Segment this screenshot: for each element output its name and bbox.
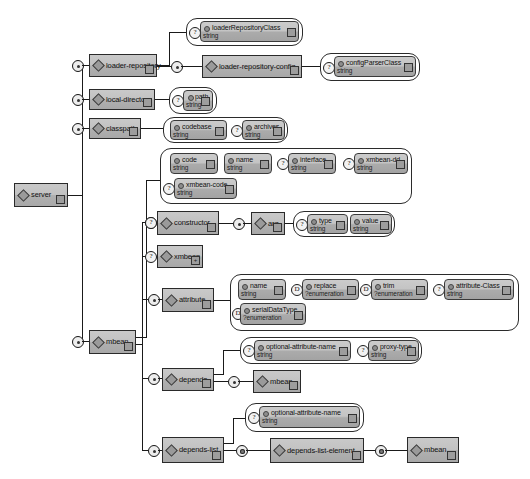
expand-collapse-icon[interactable] [289, 381, 298, 390]
attribute-value[interactable]: value string [350, 214, 392, 234]
expand-collapse-icon[interactable] [206, 160, 215, 169]
expand-collapse-icon[interactable] [145, 65, 154, 74]
attribute-type: string [257, 351, 272, 359]
element-local-directory[interactable]: local-directory [89, 89, 155, 110]
attribute-dep-optional-attribute-name[interactable]: optional-attribute-name string [254, 340, 351, 361]
attribute-type[interactable]: type string [307, 214, 348, 234]
attribute-list-optional-attribute-name[interactable]: optional-attribute-name string [259, 406, 360, 428]
attribute-type: string [177, 189, 192, 197]
element-loader-repository[interactable]: loader-repository [89, 54, 157, 77]
expand-collapse-icon[interactable] [416, 286, 425, 295]
attribute-attr-name[interactable]: name string [238, 279, 286, 300]
expand-collapse-icon[interactable] [336, 221, 345, 230]
element-constructor[interactable]: constructor [157, 211, 219, 235]
attribute-archives[interactable]: archives string [242, 120, 285, 140]
expand-collapse-icon[interactable] [201, 97, 210, 106]
element-depends-mbean[interactable]: mbean [253, 370, 301, 393]
element-depends-list[interactable]: depends-list [162, 437, 224, 463]
element-depends[interactable]: depends [162, 368, 214, 391]
connector-line [155, 99, 169, 100]
expand-icon[interactable]: + [191, 256, 200, 265]
connector-line [364, 450, 375, 451]
attribute-trim[interactable]: trim ?enumeration [371, 279, 428, 300]
attribute-label: loaderRepositoryClass [212, 23, 280, 32]
attribute-xmbean-code[interactable]: xmbean-code string [174, 178, 237, 199]
attribute-replace[interactable]: replace ?enumeration [302, 279, 359, 300]
attribute-serialDataType[interactable]: serialDataType ?enumeration [240, 303, 306, 325]
element-icon [165, 373, 178, 386]
sequence-connector[interactable] [171, 61, 183, 73]
attribute-name[interactable]: name string [224, 153, 272, 174]
attribute-type: string [357, 164, 372, 172]
element-label: constructor [174, 219, 210, 227]
element-loader-repository-config[interactable]: loader-repository-config [202, 55, 302, 78]
repeat-connector[interactable] [236, 445, 248, 457]
attribute-attribute-Class[interactable]: attribute-Class string [444, 279, 514, 300]
element-xmbean[interactable]: xmbean + [157, 245, 203, 268]
expand-collapse-icon[interactable] [502, 286, 511, 295]
expand-collapse-icon[interactable] [274, 286, 283, 295]
expand-collapse-icon[interactable] [347, 286, 356, 295]
attribute-type: string [310, 225, 325, 233]
element-icon [165, 444, 178, 457]
attribute-path[interactable]: path string [183, 90, 213, 111]
element-depends-list-mbean[interactable]: mbean [407, 437, 459, 463]
attribute-type: string [203, 32, 218, 40]
sequence-connector[interactable] [148, 294, 160, 306]
element-icon [254, 217, 267, 230]
attribute-codebase[interactable]: codebase string [170, 120, 227, 140]
expand-collapse-icon[interactable] [260, 160, 269, 169]
element-icon [205, 60, 218, 73]
sequence-connector[interactable] [233, 218, 245, 230]
connector-line [219, 223, 233, 224]
expand-collapse-icon[interactable] [324, 160, 333, 169]
expand-collapse-icon[interactable] [129, 127, 138, 136]
expand-collapse-icon[interactable] [207, 223, 216, 232]
element-depends-list-element[interactable]: depends-list-element [270, 438, 364, 463]
expand-collapse-icon[interactable] [143, 98, 152, 107]
expand-collapse-icon[interactable] [202, 379, 211, 388]
expand-collapse-icon[interactable] [202, 300, 211, 309]
sequence-connector[interactable] [72, 123, 84, 135]
expand-collapse-icon[interactable] [290, 66, 299, 75]
sequence-connector[interactable] [148, 445, 160, 457]
attribute-xmbean-dd[interactable]: xmbean-dd string [354, 153, 408, 174]
expand-collapse-icon[interactable] [339, 347, 348, 356]
expand-collapse-icon[interactable] [212, 451, 221, 460]
element-classpath[interactable]: classpath [89, 118, 141, 139]
expand-collapse-icon[interactable] [124, 342, 133, 351]
expand-collapse-icon[interactable] [273, 127, 282, 136]
element-attribute[interactable]: attribute [162, 288, 214, 312]
sequence-connector[interactable] [148, 373, 160, 385]
expand-collapse-icon[interactable] [396, 160, 405, 169]
repeat-connector[interactable] [375, 445, 387, 457]
element-mbean[interactable]: mbean [89, 330, 136, 354]
expand-collapse-icon[interactable] [352, 451, 361, 460]
attribute-interface[interactable]: interface string [288, 153, 336, 174]
expand-collapse-icon[interactable] [407, 347, 416, 356]
attribute-loaderRepositoryClass[interactable]: loaderRepositoryClass string [200, 21, 299, 42]
expand-collapse-icon[interactable] [287, 28, 296, 37]
expand-collapse-icon[interactable] [294, 311, 303, 320]
attribute-configParserClass[interactable]: configParserClass string [334, 56, 416, 77]
element-arg[interactable]: arg [251, 212, 285, 235]
attribute-proxy-type[interactable]: proxy-type string [368, 340, 419, 361]
sequence-connector[interactable] [72, 60, 84, 72]
connector-line [246, 450, 270, 451]
expand-collapse-icon[interactable] [56, 195, 65, 204]
expand-collapse-icon[interactable] [225, 185, 234, 194]
element-server[interactable]: server [14, 183, 68, 207]
connector-line [169, 32, 170, 66]
sequence-connector[interactable] [72, 94, 84, 106]
expand-collapse-icon[interactable] [215, 127, 224, 136]
expand-collapse-icon[interactable] [273, 223, 282, 232]
expand-collapse-icon[interactable] [404, 63, 413, 72]
connector-line [136, 337, 146, 338]
sequence-connector[interactable] [72, 336, 84, 348]
expand-collapse-icon[interactable] [380, 221, 389, 230]
sequence-connector[interactable] [228, 376, 240, 388]
expand-collapse-icon[interactable] [348, 414, 357, 423]
attribute-code[interactable]: code string [170, 153, 218, 174]
attribute-label: configParserClass [346, 58, 401, 67]
expand-collapse-icon[interactable] [447, 451, 456, 460]
